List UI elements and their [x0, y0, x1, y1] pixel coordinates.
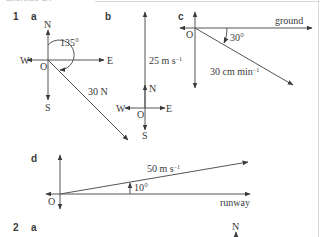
- origin-1c: O: [186, 30, 193, 40]
- part-1c-label: c: [178, 12, 184, 22]
- angle-label-1a: 135°: [60, 38, 79, 48]
- magnitude-label-1a: 30 N: [88, 87, 108, 97]
- compass-n-1a: N: [44, 20, 51, 30]
- reference-label-1d: runway: [220, 198, 250, 208]
- reference-label-1c: ground: [275, 16, 303, 26]
- angle-label-1d: 10°: [134, 183, 148, 193]
- compass-e-1a: E: [107, 56, 113, 66]
- compass-e-1b: E: [166, 104, 172, 114]
- compass-w-1a: W: [20, 56, 29, 66]
- part-1d-label: d: [31, 154, 37, 164]
- part-1b-label: b: [105, 12, 111, 22]
- magnitude-label-1c: 30 cm min−1: [210, 67, 259, 77]
- compass-n-2a: N: [232, 222, 239, 232]
- answer-diagram-page: Exercise 1A: [0, 0, 320, 237]
- diagram-1b: [125, 12, 165, 130]
- compass-n-1b: N: [149, 84, 156, 94]
- origin-1b: O: [137, 110, 144, 120]
- part-2a-label: a: [31, 223, 37, 233]
- compass-s-1a: S: [45, 103, 51, 113]
- magnitude-label-1b: 25 m s−1: [149, 56, 182, 66]
- compass-s-1b: S: [142, 131, 148, 141]
- part-1a-label: a: [31, 12, 37, 22]
- compass-w-1b: W: [116, 104, 125, 114]
- question-1-number: 1: [13, 12, 19, 22]
- question-2-number: 2: [13, 223, 19, 233]
- origin-1d: O: [48, 197, 55, 207]
- magnitude-label-1d: 50 m s−1: [147, 164, 180, 174]
- origin-1a: O: [40, 62, 47, 72]
- angle-label-1c: 30°: [230, 33, 244, 43]
